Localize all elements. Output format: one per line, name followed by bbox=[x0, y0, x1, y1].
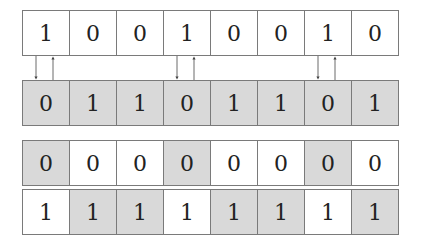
arrows-layer bbox=[0, 0, 429, 246]
